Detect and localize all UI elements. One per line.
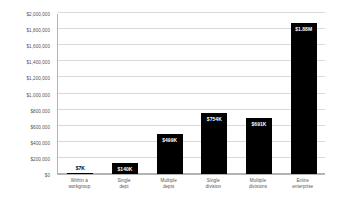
bar-slot[interactable]: $499K: [157, 14, 183, 174]
bar[interactable]: [201, 113, 227, 174]
bar-value-label: $499K: [162, 137, 177, 143]
y-axis-tick-label: $1,000,000: [27, 92, 51, 97]
x-axis-category-label: Entireenterprise: [280, 178, 325, 190]
x-axis-category-label-line: workgroup: [57, 184, 102, 190]
bar-slot[interactable]: $691K: [246, 14, 272, 174]
x-axis-category-label-line: enterprise: [280, 184, 325, 190]
bar-slot[interactable]: $1.88M: [291, 14, 317, 174]
x-axis-category-label-line: dept: [102, 184, 147, 190]
plot-area: $7K$140K$499K$754K$691K$1.88M: [57, 14, 325, 175]
bar-slot[interactable]: $7K: [67, 14, 93, 174]
bar-chart: $0$200,000$400,000$600,000$800,000$1,000…: [0, 0, 341, 211]
bar[interactable]: [67, 173, 93, 174]
bar-value-label: $754K: [207, 116, 222, 122]
y-axis-tick-label: $1,400,000: [27, 60, 51, 65]
y-axis-tick-label: $400,000: [30, 140, 50, 145]
x-axis-category-label: Within aworkgroup: [57, 178, 102, 190]
x-axis-category-labels: Within aworkgroupSingledeptMultipledepts…: [57, 178, 325, 206]
bar-slot[interactable]: $754K: [201, 14, 227, 174]
y-axis-tick-label: $1,200,000: [27, 76, 51, 81]
y-axis-tick-label: $1,800,000: [27, 28, 51, 33]
x-axis-category-label: Singledept: [102, 178, 147, 190]
y-axis-tick-label: $600,000: [30, 124, 50, 129]
y-axis-tick-label: $2,000,000: [27, 12, 51, 17]
y-axis-tick-label: $1,600,000: [27, 44, 51, 49]
bar-value-label: $140K: [117, 166, 132, 172]
x-axis-category-label: Singledivision: [191, 178, 236, 190]
x-axis-category-label-line: division: [191, 184, 236, 190]
bar-value-label: $1.88M: [295, 26, 312, 32]
y-axis-tick-labels: $0$200,000$400,000$600,000$800,000$1,000…: [0, 14, 54, 175]
y-axis-tick-label: $0: [45, 173, 50, 178]
bar-series: $7K$140K$499K$754K$691K$1.88M: [58, 14, 325, 174]
bar-value-label: $7K: [76, 165, 85, 171]
gridline: [58, 12, 325, 13]
x-axis-category-label-line: divisions: [236, 184, 281, 190]
x-axis-category-label: Multipledivisions: [236, 178, 281, 190]
y-axis-tick-label: $800,000: [30, 108, 50, 113]
bar-slot[interactable]: $140K: [112, 14, 138, 174]
x-axis-category-label: Multipledepts: [146, 178, 191, 190]
bar[interactable]: [291, 23, 317, 174]
y-axis-tick-label: $200,000: [30, 156, 50, 161]
x-axis-category-label-line: depts: [146, 184, 191, 190]
bar-value-label: $691K: [251, 121, 266, 127]
